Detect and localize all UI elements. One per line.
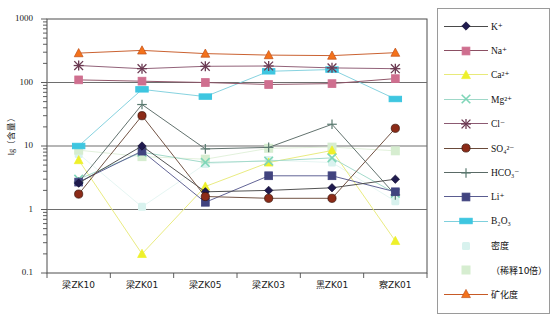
data-point [75, 190, 83, 198]
x-tick-label: 梁ZK05 [174, 281, 237, 290]
chart-screenshot: lg（含量） 10001001010.1 梁ZK10梁ZK01梁ZK05梁ZK0… [0, 0, 558, 322]
series-line [79, 151, 396, 254]
legend-marker-midu-icon [444, 238, 488, 254]
x-tick-label: 梁ZK01 [110, 281, 173, 290]
legend-item-b2o3[interactable]: B₂O₃ [438, 209, 549, 233]
legend-item-dilution[interactable]: （稀释10倍） [438, 258, 549, 282]
legend-item-k[interactable]: K⁺ [438, 14, 549, 38]
legend-glyph [462, 22, 470, 30]
data-point [390, 64, 400, 74]
x-tick-label: 梁ZK10 [47, 281, 110, 290]
chart-panel: lg（含量） 10001001010.1 梁ZK10梁ZK01梁ZK05梁ZK0… [0, 0, 430, 322]
legend-label: Ca²⁺ [488, 69, 509, 80]
x-tick-label: 黑ZK01 [300, 281, 363, 290]
legend-glyph [462, 290, 471, 298]
data-point [72, 143, 84, 148]
legend-marker-B2O3-icon [444, 213, 488, 229]
series-line [79, 50, 396, 55]
legend-marker-Ca2+-icon [444, 67, 488, 83]
series-B2O3 [72, 67, 401, 149]
legend-glyph [462, 47, 470, 55]
legend-item-so4[interactable]: SO₄²⁻ [438, 136, 549, 160]
legend-label: HCO₃⁻ [488, 167, 519, 178]
y-tick-label: 1000 [0, 14, 42, 23]
legend-item-na[interactable]: Na⁺ [438, 38, 549, 62]
data-point [199, 94, 211, 99]
y-axis-label: lg（含量） [4, 102, 16, 166]
legend-glyph [462, 70, 471, 78]
series-line [79, 146, 396, 192]
series-Cl- [74, 61, 401, 74]
series-Ca2+ [74, 146, 399, 258]
legend-label: Cl⁻ [488, 118, 505, 129]
data-point [265, 81, 273, 89]
series-line [79, 79, 396, 85]
legend-glyph [461, 119, 471, 129]
legend-label: K⁺ [488, 21, 503, 32]
legend-label: 密度 [488, 239, 509, 252]
legend-item-hco3[interactable]: HCO₃⁻ [438, 160, 549, 184]
legend-label: Li⁺ [488, 191, 504, 202]
series-Mg2+ [74, 148, 399, 198]
x-tick-label: 梁ZK03 [237, 281, 300, 290]
legend-marker-kuanghuadu-icon [444, 286, 488, 302]
legend-label: Na⁺ [488, 45, 507, 56]
data-point [391, 48, 400, 56]
data-point [137, 64, 147, 74]
data-point [74, 61, 84, 71]
legend-glyph [462, 266, 471, 275]
data-point [201, 192, 209, 200]
legend-item-salinity[interactable]: 矿化度 [438, 282, 549, 306]
legend-label: SO₄²⁻ [488, 143, 514, 154]
chart-legend: K⁺Na⁺Ca²⁺Mg²⁺Cl⁻SO₄²⁻HCO₃⁻Li⁺B₂O₃密度（稀释10… [437, 8, 550, 314]
legend-glyph [461, 168, 471, 178]
data-point [328, 80, 336, 88]
data-point [389, 96, 401, 101]
data-point [391, 175, 399, 183]
legend-label: （稀释10倍） [488, 264, 547, 277]
legend-marker-Cl--icon [444, 116, 488, 132]
legend-glyph [462, 95, 471, 104]
legend-label: 矿化度 [488, 288, 518, 301]
legend-item-mg[interactable]: Mg²⁺ [438, 87, 549, 111]
data-point [328, 184, 336, 192]
series-line [79, 151, 396, 202]
legend-item-cl[interactable]: Cl⁻ [438, 112, 549, 136]
legend-item-ca[interactable]: Ca²⁺ [438, 63, 549, 87]
legend-marker-K+-icon [444, 18, 488, 34]
legend-marker-xishi10bei-icon [444, 262, 488, 278]
data-point [138, 112, 146, 120]
legend-marker-Na+-icon [444, 43, 488, 59]
legend-item-li[interactable]: Li⁺ [438, 185, 549, 209]
y-tick-label: 10 [0, 141, 42, 150]
legend-glyph [462, 193, 470, 201]
series-line [79, 147, 396, 159]
data-point [264, 61, 274, 71]
data-point [391, 236, 400, 244]
legend-marker-Mg2+-icon [444, 91, 488, 107]
data-point [265, 194, 273, 202]
y-tick-label: 1 [0, 205, 42, 214]
series-kuanghuadu [74, 46, 399, 59]
data-point [391, 124, 399, 132]
data-point [264, 186, 272, 194]
data-point [328, 194, 336, 202]
legend-label: B₂O₃ [488, 216, 511, 226]
data-point [391, 75, 399, 83]
data-point [200, 61, 210, 71]
data-point [201, 79, 209, 87]
data-point [265, 172, 273, 180]
legend-marker-Li+-icon [444, 189, 488, 205]
legend-marker-HCO3--icon [444, 165, 488, 181]
data-point [327, 63, 337, 73]
data-point [75, 76, 83, 84]
legend-glyph [460, 219, 472, 224]
data-point [391, 188, 399, 196]
data-point [138, 46, 147, 54]
legend-marker-SO42--icon [444, 140, 488, 156]
data-point [391, 146, 400, 155]
legend-item-midu[interactable]: 密度 [438, 234, 549, 258]
series-Na+ [75, 75, 399, 89]
y-tick-label: 0.1 [0, 268, 42, 277]
data-point [138, 203, 146, 211]
